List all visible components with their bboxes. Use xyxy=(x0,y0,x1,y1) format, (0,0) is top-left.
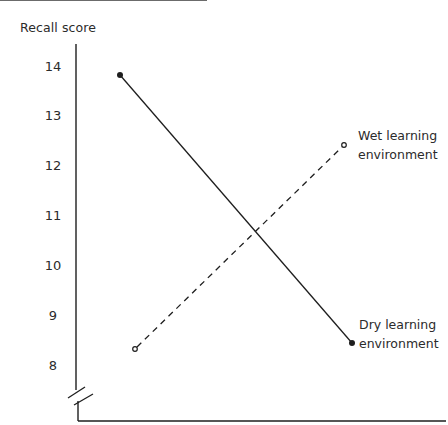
wet-point-start xyxy=(133,347,138,352)
axis-break-mark-lower xyxy=(74,394,93,405)
legend-dry-line2: environment xyxy=(359,334,439,353)
legend-dry-line1: Dry learning xyxy=(359,315,439,334)
series-dry-line xyxy=(120,75,352,343)
legend-wet: Wet learning environment xyxy=(358,126,438,164)
dry-point-start xyxy=(117,72,123,78)
legend-wet-line2: environment xyxy=(358,145,438,164)
dry-point-end xyxy=(349,340,355,346)
wet-point-end xyxy=(342,143,347,148)
plot-area xyxy=(0,0,448,425)
series-wet-line xyxy=(137,147,342,347)
legend-dry: Dry learning environment xyxy=(359,315,439,353)
legend-wet-line1: Wet learning xyxy=(358,126,438,145)
